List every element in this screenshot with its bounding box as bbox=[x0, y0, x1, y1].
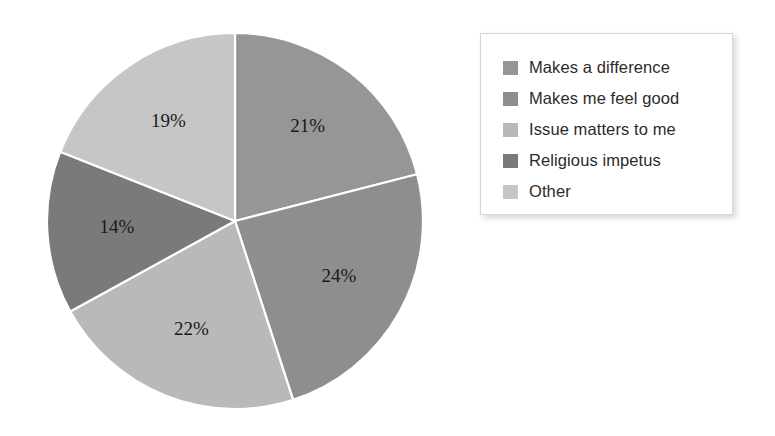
legend-item[interactable]: Makes a difference bbox=[503, 52, 732, 83]
chart-legend: Makes a differenceMakes me feel goodIssu… bbox=[480, 33, 733, 215]
pie-slice-data-label: 21% bbox=[290, 115, 325, 136]
legend-item-label: Other bbox=[529, 182, 571, 201]
legend-item-list: Makes a differenceMakes me feel goodIssu… bbox=[503, 52, 732, 207]
legend-item[interactable]: Religious impetus bbox=[503, 145, 732, 176]
legend-item[interactable]: Other bbox=[503, 176, 732, 207]
legend-color-swatch bbox=[503, 154, 518, 168]
legend-color-swatch bbox=[503, 61, 518, 75]
legend-color-swatch bbox=[503, 123, 518, 137]
legend-item-label: Makes me feel good bbox=[529, 89, 679, 108]
pie-slice-data-label: 14% bbox=[99, 216, 134, 237]
pie-chart-figure: 21%24%22%14%19% Makes a differenceMakes … bbox=[0, 0, 775, 436]
pie-slice-data-label: 19% bbox=[151, 110, 186, 131]
pie-chart-plot-area: 21%24%22%14%19% bbox=[46, 31, 424, 411]
legend-item[interactable]: Issue matters to me bbox=[503, 114, 732, 145]
legend-item-label: Religious impetus bbox=[529, 151, 661, 170]
pie-slice-data-label: 22% bbox=[174, 318, 209, 339]
legend-item[interactable]: Makes me feel good bbox=[503, 83, 732, 114]
pie-svg: 21%24%22%14%19% bbox=[46, 31, 424, 411]
legend-item-label: Makes a difference bbox=[529, 58, 670, 77]
pie-slice-data-label: 24% bbox=[321, 265, 356, 286]
legend-color-swatch bbox=[503, 185, 518, 199]
legend-color-swatch bbox=[503, 92, 518, 106]
legend-item-label: Issue matters to me bbox=[529, 120, 676, 139]
